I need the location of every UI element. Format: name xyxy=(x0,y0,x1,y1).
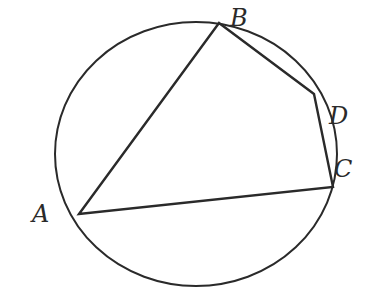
label-D: D xyxy=(328,102,348,130)
quadrilateral-ABDC xyxy=(79,23,333,214)
diagram-svg: A B D C xyxy=(0,0,374,302)
geometry-diagram: A B D C xyxy=(0,0,374,302)
label-B: B xyxy=(229,4,248,32)
label-A: A xyxy=(30,200,49,228)
circumscribed-circle xyxy=(55,22,337,286)
label-C: C xyxy=(334,155,352,183)
